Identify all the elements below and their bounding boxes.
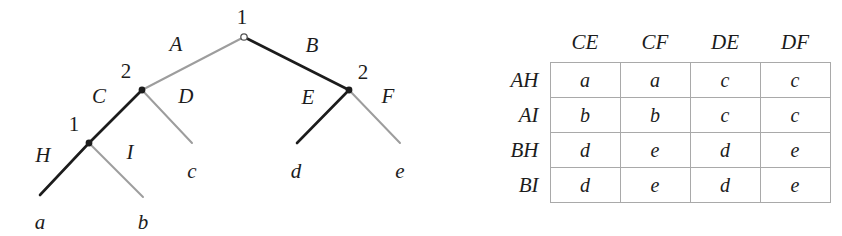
payoff-matrix-header: CECFDEDF (498, 22, 830, 63)
game-tree-diagram (0, 0, 430, 236)
matrix-row: AHaacc (498, 63, 830, 98)
leaf-outcome-b: b (138, 212, 149, 233)
column-header-row: CECFDEDF (498, 22, 830, 63)
leaf-outcome-e: e (395, 161, 405, 182)
node-player-label-root: 1 (237, 7, 248, 28)
node-player-label-right-2: 2 (358, 62, 369, 83)
payoff-cell-bh-cf[interactable]: e (620, 133, 690, 168)
tree-edge-group (40, 37, 400, 197)
leaf-outcome-a: a (35, 212, 46, 233)
strategic-form-panel: CECFDEDF AHaaccAIbbccBHdedeBIdede (450, 0, 842, 236)
matrix-row: AIbbcc (498, 98, 830, 133)
payoff-cell-ah-df[interactable]: c (760, 63, 830, 98)
tree-node-left-1[interactable] (86, 140, 93, 147)
payoff-cell-bi-de[interactable]: d (690, 168, 760, 203)
edge-label-c: C (92, 86, 106, 107)
row-header-ai: AI (498, 98, 550, 133)
payoff-cell-bi-ce[interactable]: d (550, 168, 620, 203)
payoff-cell-ai-ce[interactable]: b (550, 98, 620, 133)
edge-label-e: E (301, 87, 314, 108)
row-header-bh: BH (498, 133, 550, 168)
node-player-label-left-1: 1 (69, 114, 80, 135)
edge-label-h: H (35, 145, 50, 166)
edge-label-i: I (126, 142, 133, 163)
payoff-cell-ah-ce[interactable]: a (550, 63, 620, 98)
payoff-matrix-table: CECFDEDF AHaaccAIbbccBHdedeBIdede (498, 22, 831, 203)
game-tree-panel: ABCDHIEF1212abcde (0, 0, 430, 236)
payoff-cell-bh-de[interactable]: d (690, 133, 760, 168)
matrix-corner-cell (498, 22, 550, 63)
leaf-outcome-d: d (291, 161, 302, 182)
payoff-cell-ah-cf[interactable]: a (620, 63, 690, 98)
matrix-row: BIdede (498, 168, 830, 203)
payoff-matrix-body: AHaaccAIbbccBHdedeBIdede (498, 63, 830, 203)
tree-node-left-2[interactable] (139, 87, 146, 94)
edge-label-a: A (169, 34, 182, 55)
edge-label-f: F (381, 86, 394, 107)
payoff-cell-ai-cf[interactable]: b (620, 98, 690, 133)
node-player-label-left-2: 2 (121, 61, 132, 82)
matrix-row: BHdede (498, 133, 830, 168)
column-header-de: DE (690, 22, 760, 63)
figure-root: ABCDHIEF1212abcde CECFDEDF AHaaccAIbbccB… (0, 0, 842, 236)
payoff-cell-bi-df[interactable]: e (760, 168, 830, 203)
tree-edge-i[interactable] (89, 143, 143, 197)
payoff-cell-bh-df[interactable]: e (760, 133, 830, 168)
row-header-ah: AH (498, 63, 550, 98)
payoff-cell-ai-df[interactable]: c (760, 98, 830, 133)
tree-node-root[interactable] (241, 34, 247, 40)
leaf-outcome-c: c (187, 161, 197, 182)
edge-label-d: D (178, 86, 193, 107)
payoff-cell-bh-ce[interactable]: d (550, 133, 620, 168)
edge-label-b: B (305, 35, 318, 56)
row-header-bi: BI (498, 168, 550, 203)
column-header-ce: CE (550, 22, 620, 63)
tree-node-right-2[interactable] (346, 87, 353, 94)
payoff-cell-ah-de[interactable]: c (690, 63, 760, 98)
payoff-cell-bi-cf[interactable]: e (620, 168, 690, 203)
column-header-df: DF (760, 22, 830, 63)
tree-edge-a[interactable] (142, 37, 244, 90)
tree-edge-b[interactable] (244, 37, 349, 90)
column-header-cf: CF (620, 22, 690, 63)
payoff-cell-ai-de[interactable]: c (690, 98, 760, 133)
